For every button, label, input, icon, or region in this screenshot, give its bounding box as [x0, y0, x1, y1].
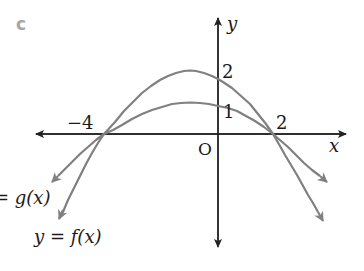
- tick-label-y-2: 2: [222, 61, 233, 82]
- tick-label-x-2: 2: [276, 112, 287, 133]
- x-axis-label: x: [329, 135, 339, 156]
- origin-label: O: [198, 139, 212, 159]
- curve-f-arrow-right: [318, 212, 323, 221]
- tick-label-y-1: 1: [223, 101, 234, 122]
- curve-g-arrow-right: [320, 176, 327, 182]
- curve-f-label: y = f(x): [33, 226, 102, 247]
- y-axis-label: y: [226, 13, 238, 34]
- part-label: c: [16, 14, 26, 34]
- graph-figure: c −4 2 2 1 O x y = g(x): [0, 0, 364, 271]
- curve-g-label: = g(x): [0, 187, 51, 208]
- graph-canvas: −4 2 2 1 O x y = g(x) y = f(x): [0, 0, 364, 271]
- curve-g-arrow-left: [52, 176, 58, 182]
- curve-f-line: [60, 71, 318, 218]
- tick-label-x-neg4: −4: [67, 112, 94, 133]
